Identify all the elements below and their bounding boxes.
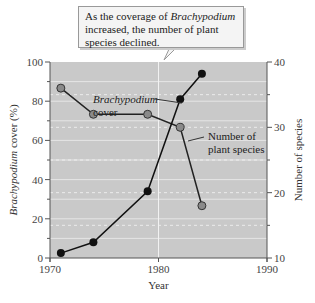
- species-marker: [144, 110, 152, 118]
- callout-italic: Brachypodium: [171, 10, 236, 22]
- callout-text-2: increased, the number of plant: [85, 23, 237, 36]
- y-tick-label: 60: [32, 134, 44, 146]
- y2-tick-label: 30: [274, 121, 286, 133]
- species-annotation-1: Number of: [208, 130, 256, 142]
- species-marker: [57, 84, 65, 92]
- y-axis-title: Brachypodium cover (%): [7, 104, 20, 216]
- callout-text-1: As the coverage of: [85, 10, 171, 22]
- species-annotation-2: plant species: [208, 143, 265, 155]
- y2-axis-title: Number of species: [292, 119, 304, 201]
- cover-marker: [144, 187, 152, 195]
- x-tick-label: 1980: [148, 263, 171, 275]
- cover-marker: [57, 249, 65, 257]
- cover-annotation-1: Brachypodium: [93, 93, 158, 105]
- y-tick-label: 100: [27, 56, 44, 68]
- y2-tick-label: 40: [274, 56, 286, 68]
- species-marker: [176, 123, 184, 131]
- cover-annotation-2: cover: [93, 106, 118, 118]
- cover-marker: [89, 238, 97, 246]
- x-axis-title: Year: [148, 279, 169, 291]
- callout-box: As the coverage of Brachypodium increase…: [78, 6, 244, 48]
- x-tick-label: 1990: [256, 263, 279, 275]
- y-tick-label: 80: [32, 95, 44, 107]
- y2-tick-label: 20: [274, 187, 286, 199]
- species-marker: [198, 202, 206, 210]
- y-tick-label: 20: [32, 213, 44, 225]
- cover-marker: [198, 70, 206, 78]
- callout-text-3: species declined.: [85, 36, 237, 49]
- x-tick-label: 1970: [39, 263, 62, 275]
- y-tick-label: 40: [32, 174, 44, 186]
